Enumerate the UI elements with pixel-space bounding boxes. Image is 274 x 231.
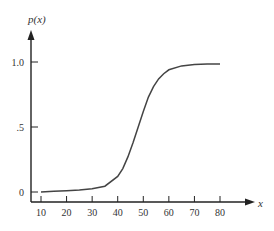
x-tick-label: 20 bbox=[62, 207, 72, 218]
x-tick-label: 60 bbox=[164, 207, 174, 218]
y-tick-label: 0 bbox=[19, 187, 24, 198]
x-tick-label: 40 bbox=[113, 207, 123, 218]
x-tick-label: 10 bbox=[36, 207, 46, 218]
y-axis-arrow-icon bbox=[28, 30, 35, 40]
x-tick-label: 70 bbox=[189, 207, 199, 218]
data-line bbox=[41, 64, 220, 192]
x-tick-label: 30 bbox=[87, 207, 97, 218]
x-ticks: 1020304050607080 bbox=[36, 196, 225, 218]
x-axis-label: x bbox=[257, 197, 263, 209]
chart: 1020304050607080 0.51.0 x p(x) bbox=[0, 0, 274, 231]
x-tick-label: 50 bbox=[138, 207, 148, 218]
x-tick-label: 80 bbox=[215, 207, 225, 218]
x-axis-arrow-icon bbox=[245, 199, 255, 206]
y-axis-label: p(x) bbox=[27, 13, 46, 26]
y-tick-label: .5 bbox=[17, 122, 25, 133]
y-tick-label: 1.0 bbox=[12, 57, 25, 68]
y-ticks: 0.51.0 bbox=[12, 57, 39, 198]
